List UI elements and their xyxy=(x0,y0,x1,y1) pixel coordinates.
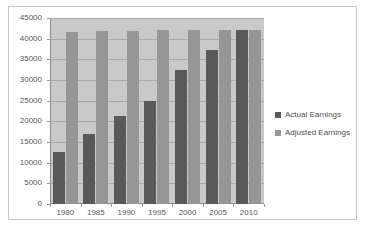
y-axis-tick-label: 30000 xyxy=(4,76,42,84)
y-axis-tick-mark xyxy=(47,18,50,19)
legend-swatch-icon-actual xyxy=(275,112,281,118)
y-axis-tick-label: 35000 xyxy=(4,55,42,63)
bar-actual-2005[interactable] xyxy=(206,50,218,204)
bar-adjusted-2010[interactable] xyxy=(249,30,261,204)
x-axis-tick-mark xyxy=(81,204,82,207)
bar-actual-2010[interactable] xyxy=(236,30,248,204)
bar-group xyxy=(50,18,81,204)
y-axis-tick-mark xyxy=(47,183,50,184)
x-axis-tick-mark xyxy=(142,204,143,207)
bar-adjusted-1985[interactable] xyxy=(96,31,108,204)
chart-figure-frame: Actual Earnings Adjusted Earnings 050001… xyxy=(8,6,357,220)
y-axis-tick-label: 25000 xyxy=(4,97,42,105)
y-axis-tick-label: 0 xyxy=(4,200,42,208)
plot-area xyxy=(50,18,264,204)
y-axis-tick-mark xyxy=(47,80,50,81)
x-axis-tick-mark xyxy=(233,204,234,207)
x-axis-tick-label: 1985 xyxy=(81,208,112,217)
bar-group xyxy=(233,18,264,204)
bar-actual-1990[interactable] xyxy=(114,116,126,204)
y-axis-tick-mark xyxy=(47,121,50,122)
x-axis-tick-mark xyxy=(264,204,265,207)
y-axis-tick-mark xyxy=(47,59,50,60)
legend-label-adjusted: Adjusted Earnings xyxy=(285,128,350,137)
x-axis-tick-mark xyxy=(50,204,51,207)
y-axis-tick-label: 10000 xyxy=(4,159,42,167)
legend-swatch-icon-adjusted xyxy=(275,130,281,136)
x-axis-tick-label: 2010 xyxy=(233,208,264,217)
legend-item-adjusted-earnings[interactable]: Adjusted Earnings xyxy=(275,128,350,137)
x-axis-tick-label: 1990 xyxy=(111,208,142,217)
y-axis-tick-mark xyxy=(47,101,50,102)
x-axis-tick-label: 1980 xyxy=(50,208,81,217)
bar-group xyxy=(111,18,142,204)
bar-adjusted-1990[interactable] xyxy=(127,31,139,204)
y-axis-tick-mark xyxy=(47,39,50,40)
legend-label-actual: Actual Earnings xyxy=(285,110,341,119)
y-axis-tick-label: 45000 xyxy=(4,14,42,22)
x-axis-tick-label: 2005 xyxy=(203,208,234,217)
x-axis-tick-label: 2000 xyxy=(172,208,203,217)
bar-group xyxy=(81,18,112,204)
bar-group xyxy=(172,18,203,204)
bar-group xyxy=(203,18,234,204)
y-axis-tick-mark xyxy=(47,142,50,143)
y-axis-tick-label: 15000 xyxy=(4,138,42,146)
y-axis-tick-mark xyxy=(47,163,50,164)
bar-group xyxy=(142,18,173,204)
bar-actual-1980[interactable] xyxy=(53,152,65,204)
x-axis-tick-mark xyxy=(203,204,204,207)
y-axis-tick-label: 5000 xyxy=(4,179,42,187)
y-axis-tick-label: 20000 xyxy=(4,117,42,125)
bar-adjusted-1980[interactable] xyxy=(66,32,78,204)
legend-item-actual-earnings[interactable]: Actual Earnings xyxy=(275,110,350,119)
bar-adjusted-1995[interactable] xyxy=(157,30,169,204)
y-axis-tick-label: 40000 xyxy=(4,35,42,43)
x-axis-tick-mark xyxy=(172,204,173,207)
bar-adjusted-2005[interactable] xyxy=(219,30,231,204)
bar-actual-1985[interactable] xyxy=(83,134,95,204)
chart-legend: Actual Earnings Adjusted Earnings xyxy=(275,110,350,146)
x-axis-tick-label: 1995 xyxy=(142,208,173,217)
bar-adjusted-2000[interactable] xyxy=(188,30,200,204)
bar-actual-2000[interactable] xyxy=(175,70,187,204)
x-axis-tick-mark xyxy=(111,204,112,207)
bar-actual-1995[interactable] xyxy=(144,101,156,204)
